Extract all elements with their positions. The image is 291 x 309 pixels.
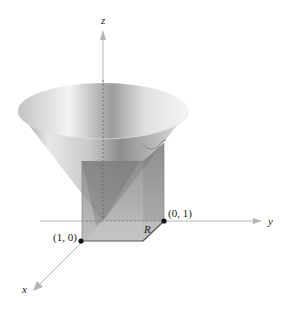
region-r-label: R bbox=[143, 223, 151, 235]
cone-opening bbox=[18, 83, 188, 139]
z-axis-arrow-icon bbox=[100, 30, 106, 40]
y-axis-label: y bbox=[267, 215, 273, 227]
x-axis-line bbox=[37, 202, 122, 287]
point-0-1-label: (0, 1) bbox=[168, 207, 192, 220]
cone-over-square-figure: z y x (1, 0) (0, 1) R bbox=[0, 0, 291, 309]
z-axis-label: z bbox=[100, 14, 106, 26]
point-0-1-marker bbox=[161, 218, 166, 223]
y-axis-arrow-icon bbox=[253, 218, 262, 224]
x-axis-label: x bbox=[21, 283, 27, 295]
point-1-0-marker bbox=[78, 238, 83, 243]
point-1-0-label: (1, 0) bbox=[53, 231, 77, 244]
